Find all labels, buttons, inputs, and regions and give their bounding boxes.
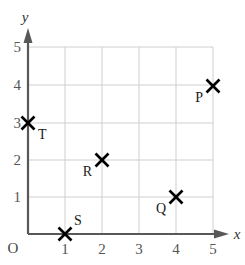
- y-tick-1: 1: [14, 189, 22, 205]
- x-tick-2: 2: [98, 241, 106, 257]
- y-tick-4: 4: [14, 77, 22, 93]
- point-label-q: Q: [156, 201, 166, 216]
- point-label-t: T: [38, 127, 47, 142]
- y-tick-5: 5: [14, 39, 22, 55]
- data-point-s: S: [59, 213, 82, 241]
- point-label-s: S: [74, 213, 82, 228]
- origin-label: O: [8, 240, 19, 256]
- y-axis-label: y: [20, 9, 29, 25]
- scatter-plot-svg: y x O 1 2 3 4 5 1 2 3 4 5 PQRST: [0, 0, 245, 265]
- point-label-r: R: [83, 164, 93, 179]
- y-tick-3: 3: [14, 115, 22, 131]
- x-tick-3: 3: [135, 241, 143, 257]
- point-label-p: P: [195, 90, 203, 105]
- data-point-p: P: [195, 80, 219, 106]
- x-tick-4: 4: [172, 241, 180, 257]
- axes: [24, 28, 230, 239]
- x-axis-tick-labels: 1 2 3 4 5: [61, 241, 217, 257]
- x-tick-1: 1: [61, 241, 69, 257]
- data-point-t: T: [22, 117, 48, 143]
- y-axis-tick-labels: 1 2 3 4 5: [14, 39, 22, 205]
- y-tick-2: 2: [14, 152, 22, 168]
- y-axis-arrowhead: [24, 28, 33, 43]
- coordinate-grid-figure: y x O 1 2 3 4 5 1 2 3 4 5 PQRST: [0, 0, 245, 265]
- x-axis-label: x: [233, 226, 241, 242]
- x-axis-arrowhead: [214, 230, 229, 239]
- x-tick-5: 5: [209, 241, 217, 257]
- data-point-q: Q: [156, 191, 183, 217]
- data-point-r: R: [83, 154, 109, 180]
- grid-lines: [28, 47, 213, 234]
